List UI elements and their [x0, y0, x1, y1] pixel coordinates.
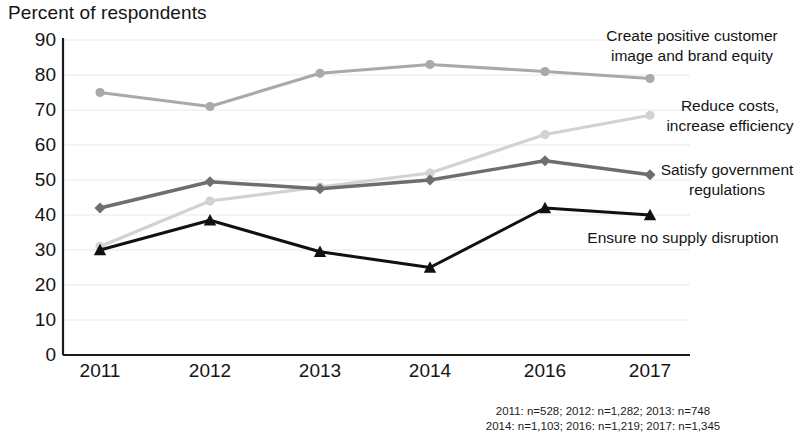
series-label-line-2: increase efficiency [655, 116, 805, 136]
series-label-line-2: image and brand equity [578, 46, 806, 66]
x-tick-2017: 2017 [629, 360, 671, 382]
x-tick-2016: 2016 [524, 360, 566, 382]
series-label-line-1: Satisfy government [648, 160, 806, 180]
series-label-line-1: Ensure no supply disruption [560, 228, 806, 248]
footnote-sample-sizes: 2011: n=528; 2012: n=1,282; 2013: n=748 … [400, 404, 806, 434]
series-label-reduce-costs-increase-efficiency: Reduce costs, increase efficiency [655, 96, 805, 136]
x-tick-2013: 2013 [299, 360, 341, 382]
series-label-line-1: Create positive customer [578, 26, 806, 46]
axis-lines [63, 38, 690, 355]
series-create-positive-customer-image [95, 60, 654, 111]
series-satisfy-government-regulations [94, 155, 655, 213]
x-tick-2012: 2012 [189, 360, 231, 382]
series-label-satisfy-government-regulations: Satisfy government regulations [648, 160, 806, 200]
series-label-line-2: regulations [648, 180, 806, 200]
series-label-create-positive-customer-image: Create positive customer image and brand… [578, 26, 806, 66]
x-tick-2014: 2014 [409, 360, 451, 382]
series-label-line-1: Reduce costs, [655, 96, 805, 116]
footnote-line-1: 2011: n=528; 2012: n=1,282; 2013: n=748 [400, 404, 806, 419]
footnote-line-2: 2014: n=1,103; 2016: n=1,219; 2017: n=1,… [400, 419, 806, 434]
x-tick-2011: 2011 [80, 360, 121, 382]
series-label-ensure-no-supply-disruption: Ensure no supply disruption [560, 228, 806, 248]
